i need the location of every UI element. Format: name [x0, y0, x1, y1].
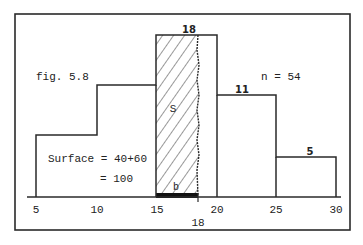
bar-label-5: 5: [307, 146, 314, 157]
figure-label: fig. 5.8: [36, 71, 89, 83]
x-tick-label: 20: [210, 204, 223, 216]
bar-label-18: 18: [182, 24, 196, 35]
marker-label-18: 18: [191, 217, 204, 229]
x-tick-label: 5: [33, 204, 40, 216]
shaded-region-s: [156, 35, 199, 196]
surface-label-line1: Surface = 40+60: [48, 153, 147, 165]
n-label: n = 54: [261, 71, 301, 83]
region-b-label: b: [173, 182, 179, 193]
x-tick-label: 15: [150, 204, 163, 216]
x-tick-label: 30: [329, 204, 342, 216]
histogram-figure: 5 10 15 20 25 30 18 18 11 5 fig. 5.8 n =…: [0, 0, 363, 245]
region-s-label: S: [170, 103, 177, 115]
surface-label-line2: = 100: [100, 173, 133, 185]
bar-label-11: 11: [235, 84, 249, 95]
x-tick-label: 25: [269, 204, 282, 216]
x-tick-label: 10: [90, 204, 103, 216]
